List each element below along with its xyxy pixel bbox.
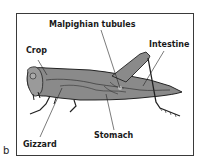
- label-stomach: Stomach: [94, 131, 133, 140]
- label-intestine: Intestine: [149, 40, 189, 49]
- label-malpighian-tubules: Malpighian tubules: [49, 20, 135, 29]
- label-crop: Crop: [26, 46, 47, 55]
- label-gizzard: Gizzard: [23, 140, 57, 149]
- panel-label: b: [3, 145, 9, 156]
